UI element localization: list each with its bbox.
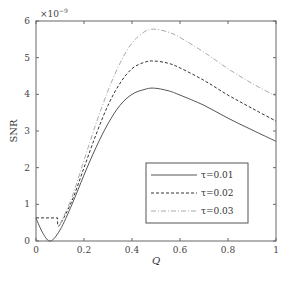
y-tick-label: 4 bbox=[24, 89, 30, 99]
y-tick-label: 1 bbox=[24, 199, 30, 209]
y-tick-label: 6 bbox=[24, 16, 30, 26]
y-tick-label: 3 bbox=[24, 126, 30, 136]
x-tick-labels: 00.20.40.60.81 bbox=[33, 245, 279, 255]
y-axis-label: SNR bbox=[8, 119, 19, 143]
y-exponent-label: ×10−9 bbox=[40, 7, 68, 19]
x-tick-label: 1 bbox=[273, 245, 279, 255]
legend-label-1: τ=0.01 bbox=[201, 170, 234, 180]
x-tick-label: 0.6 bbox=[173, 245, 188, 255]
y-tick-label: 2 bbox=[24, 163, 30, 173]
x-tick-label: 0.4 bbox=[125, 245, 140, 255]
legend-label-2: τ=0.02 bbox=[201, 188, 234, 198]
y-tick-label: 0 bbox=[24, 236, 30, 246]
x-tick-label: 0.2 bbox=[77, 245, 91, 255]
y-tick-label: 5 bbox=[24, 53, 30, 63]
figure-caption-cropped bbox=[8, 271, 291, 282]
x-axis-label: Q bbox=[152, 255, 160, 266]
x-tick-label: 0 bbox=[33, 245, 39, 255]
legend: τ=0.01 τ=0.02 τ=0.03 bbox=[146, 163, 248, 223]
snr-chart: 00.20.40.60.81 0123456 ×10−9 Q SNR τ=0.0… bbox=[0, 0, 291, 282]
y-tick-labels: 0123456 bbox=[24, 16, 30, 246]
legend-label-3: τ=0.03 bbox=[201, 206, 234, 216]
x-tick-label: 0.8 bbox=[221, 245, 236, 255]
